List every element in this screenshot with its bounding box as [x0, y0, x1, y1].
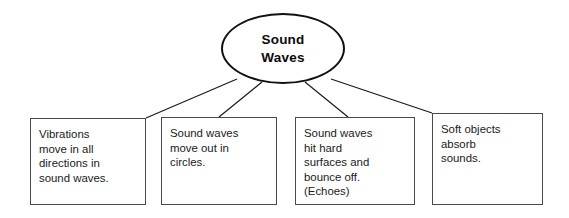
root-node-label-line-2: Waves — [261, 49, 304, 67]
leaf-box-circles-line-3: circles. — [170, 155, 276, 170]
leaf-box-absorb-line-3: sounds. — [441, 151, 542, 166]
leaf-box-absorb-line-2: absorb — [441, 137, 542, 152]
leaf-box-circles-line-1: Sound waves — [170, 126, 276, 141]
leaf-box-vibrations: Vibrations move in all directions in sou… — [30, 118, 146, 205]
leaf-box-vibrations-line-1: Vibrations — [39, 127, 145, 142]
concept-map-diagram: Sound Waves Vibrations move in all direc… — [0, 0, 569, 218]
leaf-box-echoes-line-4: bounce off. — [304, 170, 414, 185]
leaf-box-echoes-line-5: (Echoes) — [304, 184, 414, 199]
leaf-box-vibrations-line-2: move in all — [39, 142, 145, 157]
leaf-box-circles: Sound waves move out in circles. — [161, 117, 277, 205]
connector-line-root-to-vibrations — [146, 79, 237, 118]
leaf-box-vibrations-line-4: sound waves. — [39, 171, 145, 186]
root-node-label-line-1: Sound — [262, 31, 305, 49]
connector-line-root-to-echoes — [305, 82, 348, 117]
leaf-box-echoes: Sound waves hit hard surfaces and bounce… — [295, 117, 415, 205]
leaf-box-absorb-line-1: Soft objects — [441, 122, 542, 137]
leaf-box-echoes-line-3: surfaces and — [304, 155, 414, 170]
leaf-box-echoes-line-2: hit hard — [304, 141, 414, 156]
leaf-box-circles-line-2: move out in — [170, 141, 276, 156]
leaf-box-absorb: Soft objects absorb sounds. — [432, 113, 543, 205]
connector-line-root-to-circles — [219, 82, 262, 117]
root-node-sound-waves: Sound Waves — [221, 13, 345, 84]
connector-line-root-to-absorb — [331, 79, 432, 113]
leaf-box-echoes-line-1: Sound waves — [304, 126, 414, 141]
leaf-box-vibrations-line-3: directions in — [39, 156, 145, 171]
